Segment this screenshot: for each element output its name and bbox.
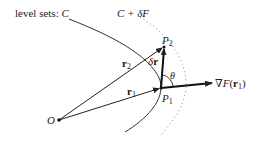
vector-delta-r-label: δr bbox=[148, 55, 158, 67]
point-p1-label: P1 bbox=[161, 92, 173, 106]
level-set-diagram: level sets: C C + δF O P1 P2 r1 r2 δr θ … bbox=[0, 0, 263, 141]
vector-r1-label: r1 bbox=[127, 85, 136, 99]
vector-r2-label: r2 bbox=[122, 57, 131, 71]
gradient-label: ∇F(r1) bbox=[215, 77, 246, 91]
curve-c-delta-label: C + δF bbox=[117, 7, 149, 19]
point-o-dot bbox=[57, 118, 61, 122]
vector-r1-line bbox=[59, 89, 159, 121]
vector-r2-line bbox=[59, 48, 162, 120]
level-set-curve-c bbox=[69, 19, 161, 132]
angle-theta-label: θ bbox=[170, 70, 175, 81]
point-o-label: O bbox=[47, 114, 55, 126]
point-p1-dot bbox=[160, 87, 163, 90]
vector-delta-r-line bbox=[161, 49, 164, 88]
point-p2-label: P2 bbox=[161, 34, 173, 48]
level-sets-label: level sets: C bbox=[15, 7, 69, 19]
gradient-vector-line bbox=[161, 83, 212, 88]
